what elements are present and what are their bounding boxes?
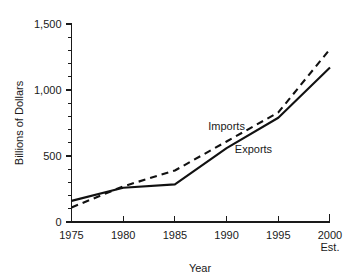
y-axis-minor-ticks <box>68 37 72 209</box>
x-tick-label: 1995 <box>266 229 290 241</box>
y-tick-label: 1,500 <box>34 18 62 30</box>
line-chart: 05001,0001,500 197519801985199019952000E… <box>0 0 349 279</box>
series-line-exports <box>72 68 331 201</box>
x-tick-label: 2000 <box>318 229 342 241</box>
x-tick-label: 1980 <box>111 229 135 241</box>
series-label-exports: Exports <box>235 143 273 155</box>
x-tick-label: 1985 <box>163 229 187 241</box>
y-tick-label: 0 <box>55 216 61 228</box>
y-tick-label: 500 <box>43 150 61 162</box>
series-line-imports <box>72 49 331 207</box>
x-tick-label: 1975 <box>59 229 83 241</box>
x-tick-sublabel: Est. <box>321 241 340 253</box>
x-axis-title: Year <box>189 262 212 274</box>
y-axis-major-ticks <box>66 24 72 222</box>
y-axis-tick-labels: 05001,0001,500 <box>34 18 62 228</box>
y-axis-title: Billions of Dollars <box>13 80 25 165</box>
series-annotations: ImportsExports <box>208 120 272 156</box>
x-axis-major-ticks <box>123 216 278 222</box>
x-axis-tick-labels: 197519801985199019952000Est. <box>59 229 342 253</box>
series-lines <box>72 49 331 207</box>
y-tick-label: 1,000 <box>34 84 62 96</box>
chart-container: 05001,0001,500 197519801985199019952000E… <box>0 0 349 279</box>
x-tick-label: 1990 <box>214 229 238 241</box>
series-label-imports: Imports <box>208 120 245 132</box>
